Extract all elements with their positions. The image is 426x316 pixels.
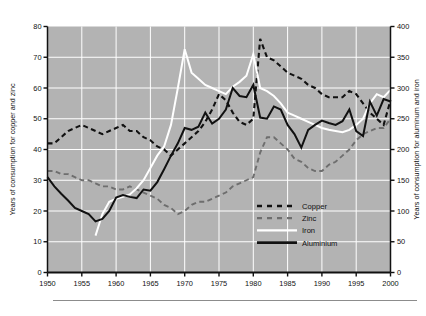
- axis-title-left: Years of consumption for copper and zinc: [8, 83, 17, 215]
- legend-label-aluminium: Aluminium: [302, 239, 337, 248]
- tick-label-x: 1950: [39, 279, 55, 288]
- tick-label-x: 1975: [211, 279, 227, 288]
- tick-label-left: 10: [33, 237, 41, 246]
- line-chart-svg: 0102030405060708005010015020025030035040…: [0, 0, 426, 316]
- tick-label-x: 1960: [108, 279, 124, 288]
- tick-label-left: 50: [33, 114, 41, 123]
- tick-label-right: 200: [397, 145, 409, 154]
- chart-figure: 0102030405060708005010015020025030035040…: [0, 0, 426, 316]
- legend-label-zinc: Zinc: [302, 214, 317, 223]
- tick-label-left: 30: [33, 176, 41, 185]
- tick-label-x: 1980: [245, 279, 261, 288]
- tick-label-right: 400: [397, 22, 409, 31]
- tick-label-x: 1955: [74, 279, 90, 288]
- footer-divider: [53, 300, 417, 301]
- tick-label-right: 300: [397, 84, 409, 93]
- axis-title-right: Years of consumption for aluminum and ir…: [412, 79, 421, 219]
- tick-label-x: 1965: [142, 279, 158, 288]
- tick-label-right: 50: [397, 237, 405, 246]
- tick-label-x: 1985: [279, 279, 295, 288]
- tick-label-x: 2000: [382, 279, 398, 288]
- tick-label-right: 350: [397, 53, 409, 62]
- legend-label-copper: Copper: [302, 202, 327, 211]
- tick-label-left: 40: [33, 145, 41, 154]
- tick-label-right: 100: [397, 207, 409, 216]
- tick-label-left: 80: [33, 22, 41, 31]
- tick-label-right: 150: [397, 176, 409, 185]
- tick-label-right: 250: [397, 114, 409, 123]
- tick-label-right: 0: [397, 268, 401, 277]
- tick-label-x: 1990: [314, 279, 330, 288]
- tick-label-left: 60: [33, 84, 41, 93]
- tick-label-left: 20: [33, 207, 41, 216]
- tick-label-x: 1970: [176, 279, 192, 288]
- tick-label-left: 70: [33, 53, 41, 62]
- tick-label-x: 1995: [348, 279, 364, 288]
- legend-label-iron: Iron: [302, 226, 315, 235]
- chart-canvas: 0102030405060708005010015020025030035040…: [0, 0, 426, 316]
- tick-label-left: 0: [37, 268, 41, 277]
